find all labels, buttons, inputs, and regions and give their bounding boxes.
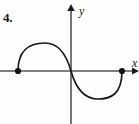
x-axis-label: x <box>132 57 137 69</box>
graph-canvas <box>0 0 139 124</box>
figure-container: 4. y x <box>0 0 139 124</box>
y-axis-arrow-icon <box>67 4 74 11</box>
y-axis-label: y <box>79 5 84 17</box>
right-endpoint-dot <box>119 68 125 74</box>
left-endpoint-dot <box>15 68 21 74</box>
